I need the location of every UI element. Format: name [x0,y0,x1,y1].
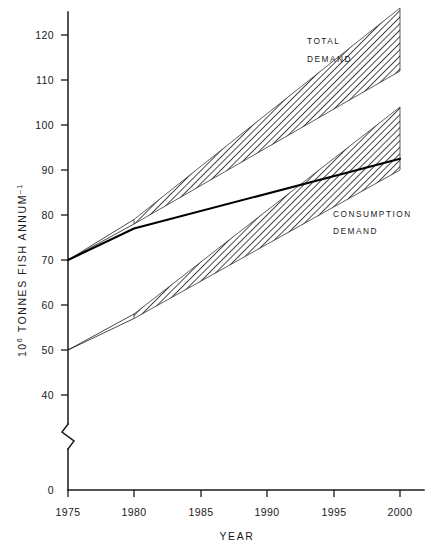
y-axis-ticks [61,35,68,395]
y-axis-title-main: TONNES FISH ANNUM [16,194,28,337]
annotation-total-demand: TOTAL DEMAND [307,36,352,64]
x-tick-label-1995: 1995 [322,506,347,518]
y-tick-label-90: 90 [42,164,54,176]
consumption-demand-lower-leader [68,319,134,351]
x-tick-label-1990: 1990 [255,506,280,518]
x-axis-title: YEAR [220,530,255,542]
x-tick-label-1985: 1985 [189,506,214,518]
fish-demand-line-chart: 120 110 100 90 80 70 60 50 40 0 1975 198… [0,0,431,554]
y-axis-title-base: 10 [16,342,28,357]
y-axis-tick-labels: 120 110 100 90 80 70 60 50 40 0 [35,29,54,496]
chart-figure: 120 110 100 90 80 70 60 50 40 0 1975 198… [0,0,431,554]
y-tick-label-40: 40 [42,389,54,401]
series-total-demand [68,8,400,260]
consumption-demand-upper-leader [68,314,134,350]
annotation-total-demand-line2: DEMAND [307,54,352,64]
y-tick-label-80: 80 [42,209,54,221]
total-demand-upper-leader [68,220,134,261]
y-tick-label-0: 0 [48,484,54,496]
svg-text:106 TONNES FISH ANNUM–1: 106 TONNES FISH ANNUM–1 [16,183,28,357]
annotation-consumption-demand-line2: DEMAND [333,226,378,236]
y-tick-label-120: 120 [35,29,54,41]
y-axis-title: 106 TONNES FISH ANNUM–1 [16,183,28,357]
y-tick-label-60: 60 [42,299,54,311]
x-axis-tick-labels: 1975 1980 1985 1990 1995 2000 [56,506,413,518]
y-tick-label-110: 110 [36,74,54,86]
annotation-total-demand-line1: TOTAL [307,36,340,46]
y-axis-break-zigzag [62,424,74,449]
y-axis-title-suffix: –1 [16,183,23,194]
y-tick-label-50: 50 [42,344,54,356]
x-tick-label-1975: 1975 [56,506,81,518]
x-tick-label-1980: 1980 [122,506,147,518]
y-tick-label-100: 100 [35,119,54,131]
annotation-consumption-demand-line1: CONSUMPTION [333,209,412,219]
x-axis-ticks [68,490,400,497]
x-tick-label-2000: 2000 [388,506,413,518]
annotation-consumption-demand: CONSUMPTION DEMAND [333,209,412,236]
y-tick-label-70: 70 [42,254,54,266]
